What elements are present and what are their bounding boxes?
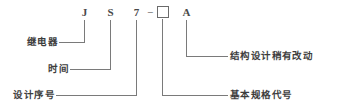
callout-label-design-serial: 设计序号 xyxy=(0,90,55,100)
callout-label-time: 时间 xyxy=(0,64,69,74)
leader-line-basic-spec-code xyxy=(163,19,229,96)
code-char-s: S xyxy=(102,7,119,18)
code-char-7: 7 xyxy=(128,7,145,18)
callout-label-structure-change: 结构设计稍有改动 xyxy=(230,51,313,61)
leader-line-relay xyxy=(59,20,85,43)
leader-line-design-serial xyxy=(56,20,137,96)
callout-label-relay: 继电器 xyxy=(0,37,58,47)
leader-line-structure-change xyxy=(187,20,229,57)
code-char-dash: − xyxy=(144,7,156,18)
code-char-a: A xyxy=(178,7,195,18)
model-designation-diagram: J S 7 − A 继电器 时间 设计序号 结构设计稍有改动 基本规格代号 xyxy=(0,0,338,110)
code-placeholder-box xyxy=(157,6,169,18)
callout-label-basic-spec-code: 基本规格代号 xyxy=(230,90,292,100)
leader-line-time xyxy=(70,20,111,70)
code-char-j: J xyxy=(76,7,93,18)
